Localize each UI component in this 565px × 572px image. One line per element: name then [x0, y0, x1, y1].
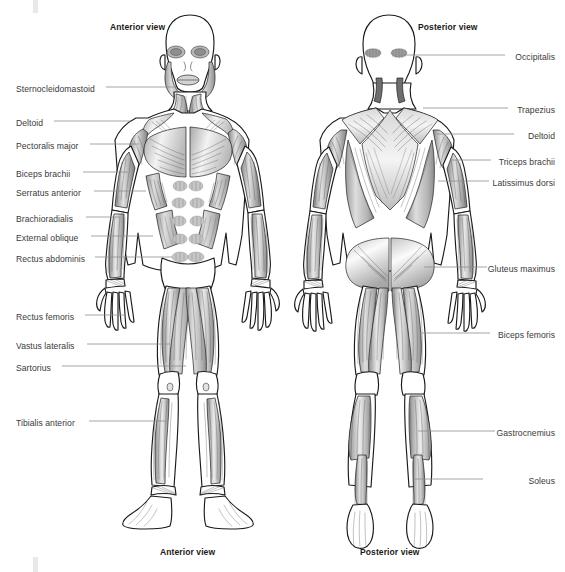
- label-gastrocnemius: Gastrocnemius: [497, 428, 555, 438]
- label-pectoralis-major: Pectoralis major: [16, 141, 78, 151]
- label-vastus-lateralis: Vastus lateralis: [16, 341, 74, 351]
- label-serratus-anterior: Serratus anterior: [16, 188, 81, 198]
- label-rectus-abdominis: Rectus abdominis: [16, 254, 85, 264]
- muscular-system-diagram: Anterior view Posterior view Sternocleid…: [0, 0, 565, 572]
- label-brachioradialis: Brachioradialis: [16, 214, 73, 224]
- label-external-oblique: External oblique: [16, 233, 78, 243]
- label-biceps-brachii: Biceps brachii: [16, 169, 70, 179]
- posterior-figure: [295, 15, 486, 548]
- anterior-view-title: Anterior view: [110, 22, 165, 32]
- anterior-view-caption: Anterior view: [160, 547, 215, 557]
- label-trapezius: Trapezius: [517, 105, 555, 115]
- label-soleus: Soleus: [528, 476, 555, 486]
- label-occipitalis: Occipitalis: [515, 52, 555, 62]
- label-gluteus-maximus: Gluteus maximus: [488, 264, 555, 274]
- posterior-view-caption: Posterior view: [360, 547, 420, 557]
- label-tibialis-anterior: Tibialis anterior: [16, 418, 75, 428]
- label-deltoid: Deltoid: [16, 118, 43, 128]
- label-latissimus-dorsi: Latissimus dorsi: [493, 178, 555, 188]
- posterior-view-title: Posterior view: [418, 22, 478, 32]
- anterior-figure: [97, 15, 280, 529]
- label-deltoid-posterior: Deltoid: [528, 131, 555, 141]
- label-biceps-femoris: Biceps femoris: [498, 330, 555, 340]
- label-rectus-femoris: Rectus femoris: [16, 312, 74, 322]
- label-triceps-brachii: Triceps brachii: [499, 157, 555, 167]
- label-sartorius: Sartorius: [16, 363, 51, 373]
- label-sternocleidomastoid: Sternocleidomastoid: [16, 84, 95, 94]
